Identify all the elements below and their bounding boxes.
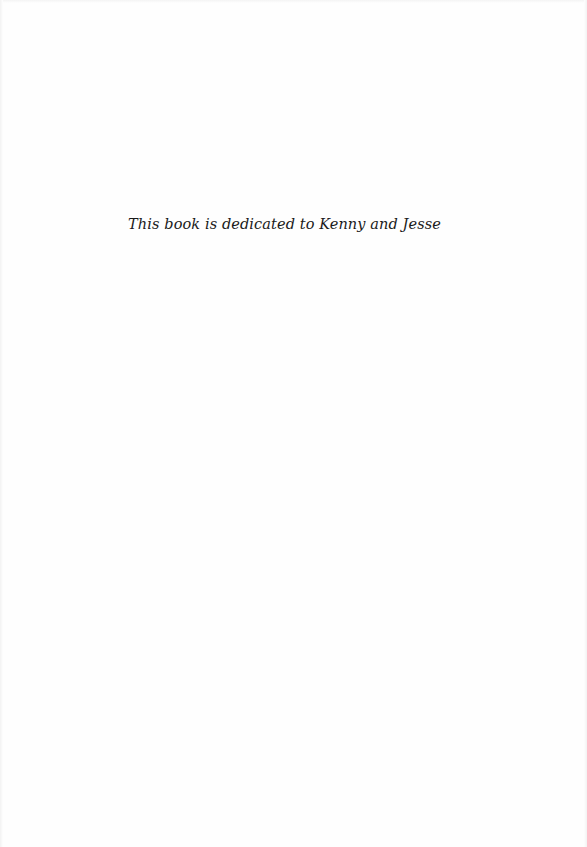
dedication-text: This book is dedicated to Kenny and Jess… [0, 213, 587, 235]
book-page: This book is dedicated to Kenny and Jess… [0, 0, 587, 847]
page-edge-left [0, 0, 3, 847]
page-edge-top [0, 0, 587, 3]
